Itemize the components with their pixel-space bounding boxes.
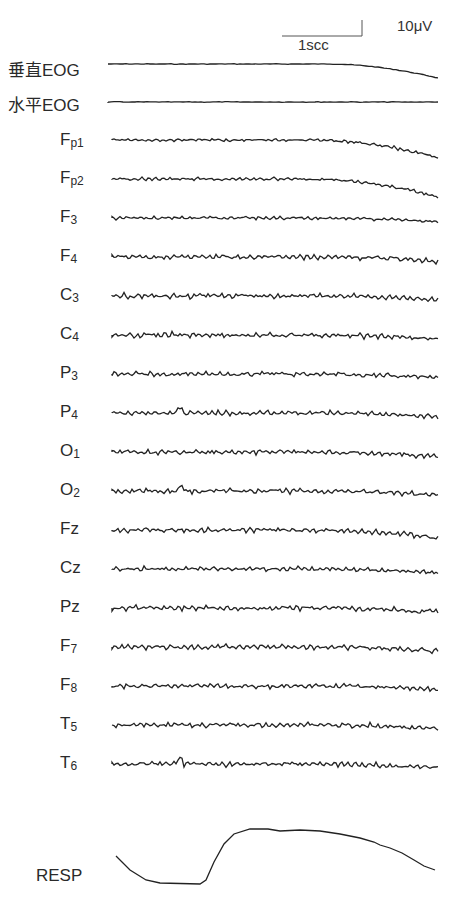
trace-f3 [112,216,438,223]
trace-resp [116,829,435,884]
trace-o1 [112,449,438,458]
trace-c4 [112,331,438,340]
trace-f7 [112,644,438,654]
trace-t5 [112,722,438,730]
trace-fp1 [112,139,438,159]
trace-c3 [112,293,438,302]
trace-o2 [112,485,438,496]
trace-fp2 [112,177,438,198]
trace-f4 [112,254,438,264]
trace-p4 [112,408,438,419]
trace-eog [108,64,438,78]
trace-t6 [112,757,438,768]
trace-f8 [112,684,438,692]
trace-pz [112,605,438,613]
trace-cz [112,566,438,574]
trace-fz [112,527,438,539]
trace-eog [108,102,438,103]
eeg-traces [0,0,455,898]
trace-p3 [112,371,438,378]
